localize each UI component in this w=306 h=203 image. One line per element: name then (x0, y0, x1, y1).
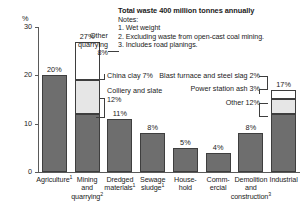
y-tick-label-0: 0 (6, 168, 32, 175)
bar-segment (271, 90, 296, 100)
leader-other-v (259, 103, 260, 117)
bar-6 (206, 153, 231, 172)
leader-colliery-h (96, 117, 105, 118)
bar-segment (75, 114, 100, 172)
notes-label: Notes: (118, 16, 303, 25)
bar-8 (271, 90, 296, 172)
bar-segment (238, 133, 263, 172)
y-tick-10 (35, 124, 39, 125)
bar-value-label: 8% (123, 123, 183, 132)
bar-segment (271, 99, 296, 114)
callout-blast-furnace: Blast furnace and steel slag 2% (150, 72, 260, 81)
note-item-2: 2. Excluding waste from open-cast coal m… (118, 33, 303, 42)
bar-1 (42, 75, 67, 172)
bar-segment (271, 114, 296, 172)
y-tick-label-10: 10 (6, 120, 32, 127)
title-and-notes: Total waste 400 million tonnes annually … (118, 6, 303, 50)
x-axis-line (38, 172, 300, 173)
footnote-marker: 3 (268, 190, 271, 196)
bar-value-label: 17% (254, 80, 306, 89)
callout-other-industrial: Other 12% (190, 99, 260, 108)
category-label-line: Industrial (262, 176, 306, 184)
bar-2 (75, 42, 100, 173)
leader-power-h (259, 89, 268, 90)
callout-other-quarrying: Other quarrying 8% (46, 32, 108, 58)
y-tick-label-30: 30 (6, 23, 32, 30)
leader-power-v (259, 89, 260, 94)
leader-colliery-tick (99, 98, 105, 99)
y-tick-30 (35, 27, 39, 28)
y-tick-20 (35, 75, 39, 76)
category-label-line: construction3 (229, 193, 273, 201)
chart-title: Total waste 400 million tonnes annually (118, 6, 303, 15)
leader-colliery-v (104, 98, 105, 118)
callout-china-clay: China clay 7% (107, 72, 153, 81)
note-item-1: 1. Wet weight (118, 24, 303, 33)
leader-blast-v (267, 76, 268, 89)
y-axis-line (38, 27, 39, 173)
note-item-3: 3. Includes road planings. (118, 41, 303, 50)
leader-other-h (259, 103, 268, 104)
bar-segment (42, 75, 67, 172)
leader-china-clay-v (104, 74, 105, 80)
bar-7 (238, 133, 263, 172)
leader-other-base-h (259, 116, 268, 117)
category-label-8: Industrial (262, 176, 306, 184)
y-tick-0 (35, 172, 39, 173)
category-label-line: quarrying2 (65, 193, 109, 201)
waste-composition-chart: Total waste 400 million tonnes annually … (0, 0, 306, 203)
callout-power-station: Power station ash 3% (170, 85, 260, 94)
callout-other-quarrying-line3: 8% (46, 49, 108, 58)
callout-colliery-line2: 12% (107, 96, 121, 105)
bar-segment (206, 153, 231, 172)
leader-other-quarrying (108, 51, 119, 52)
